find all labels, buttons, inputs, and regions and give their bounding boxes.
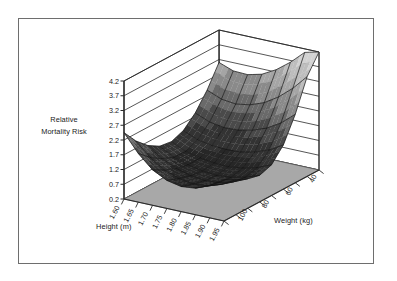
x-tick-6 [207, 218, 210, 223]
x-tick-label-5: 1.85 [179, 220, 194, 237]
y-tick-6 [295, 183, 300, 187]
x-tick-7 [221, 221, 224, 226]
x-tick-label-4: 1.80 [164, 217, 179, 234]
z-tick-label-5: 1.7 [109, 150, 119, 159]
figure-frame: Relative Mortality Risk Height (m) Weigh… [18, 18, 374, 264]
y-tick-4 [272, 196, 277, 200]
x-tick-0 [121, 199, 124, 204]
y-tick-label-2: 60 [283, 186, 295, 197]
z-tick-label-4: 2.2 [109, 136, 119, 145]
z-tick-label-0: 4.2 [109, 77, 119, 86]
z-tick-label-1: 3.7 [109, 91, 119, 100]
x-tick-1 [136, 202, 139, 207]
z-tick-label-6: 1.2 [109, 165, 119, 174]
x-tick-3 [164, 208, 167, 213]
z-axis-ticklabels: 4.23.73.22.72.21.71.20.70.2 [109, 77, 124, 204]
surface-plot-svg: 4.23.73.22.72.21.71.20.70.2 1.601.651.70… [19, 19, 375, 265]
z-tick-label-7: 0.7 [109, 180, 119, 189]
x-tick-label-3: 1.75 [150, 214, 165, 231]
y-tick-label-3: 40 [307, 173, 319, 184]
x-tick-label-0: 1.60 [107, 204, 122, 221]
z-tick-label-8: 0.2 [109, 195, 119, 204]
x-tick-label-1: 1.65 [121, 207, 136, 224]
z-tick-label-3: 2.7 [109, 121, 119, 130]
y-tick-0 [224, 221, 229, 225]
x-tick-label-6: 1.90 [193, 223, 208, 240]
x-tick-label-7: 1.95 [207, 226, 222, 243]
figure-root: Relative Mortality Risk Height (m) Weigh… [0, 0, 397, 281]
y-tick-8 [319, 170, 324, 174]
x-tick-2 [150, 205, 153, 210]
y-tick-label-1: 80 [260, 198, 272, 209]
x-tick-4 [179, 212, 182, 217]
z-tick-label-2: 3.2 [109, 106, 119, 115]
x-tick-label-2: 1.70 [136, 210, 151, 227]
x-tick-5 [193, 215, 196, 220]
